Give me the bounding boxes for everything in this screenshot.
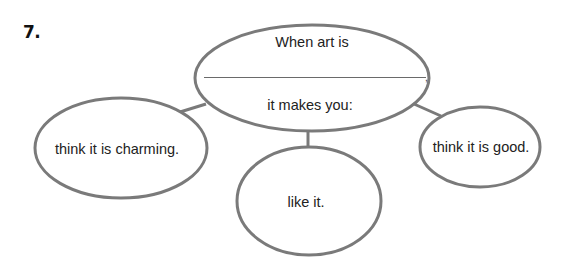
- connector-right: [414, 104, 441, 116]
- blank-comma: ,: [425, 72, 428, 83]
- answer-blank[interactable]: [204, 77, 426, 78]
- branch-left-label: think it is charming.: [55, 141, 179, 157]
- connector-left: [180, 104, 206, 112]
- branch-bottom-label: like it.: [287, 194, 324, 210]
- branch-right-label: think it is good.: [433, 139, 530, 155]
- center-line2: it makes you:: [267, 97, 352, 113]
- center-line1: When art is: [275, 34, 348, 50]
